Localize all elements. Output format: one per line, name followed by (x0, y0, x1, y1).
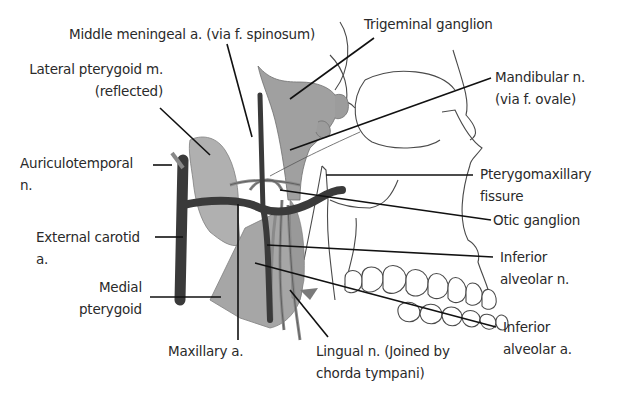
label-line-1: External carotid (36, 226, 140, 248)
label-line-2: pterygoid (40, 298, 142, 320)
label-lateral-pterygoid: Lateral pterygoid m. (reflected) (18, 58, 163, 102)
lateral-pterygoid-shape (189, 137, 240, 246)
label-inferior-alveolar-artery: Inferior alveolar a. (503, 316, 572, 360)
label-lingual-nerve: Lingual n. (Joined by chorda tympani) (316, 340, 450, 384)
label-line-1: Pterygomaxillary (480, 163, 591, 185)
label-line-1: Inferior (500, 246, 569, 268)
label-auriculotemporal-nerve: Auriculotemporal n. (20, 152, 133, 196)
anatomy-figure: Middle meningeal a. (via f. spinosum) Tr… (0, 0, 620, 396)
label-line-1: Mandibular n. (495, 66, 585, 88)
label-line-2: fissure (480, 185, 591, 207)
label-pterygomaxillary-fissure: Pterygomaxillary fissure (480, 163, 591, 207)
label-line-2: alveolar n. (500, 268, 569, 290)
label-line-1: Auriculotemporal (20, 152, 133, 174)
label-line-2: (via f. ovale) (495, 88, 585, 110)
label-line-2: n. (20, 174, 133, 196)
label-line-2: a. (36, 248, 140, 270)
label-line-2: chorda tympani) (316, 362, 450, 384)
label-line-2: alveolar a. (503, 338, 572, 360)
label-line-1: Medial (40, 276, 142, 298)
label-inferior-alveolar-nerve: Inferior alveolar n. (500, 246, 569, 290)
label-middle-meningeal-artery: Middle meningeal a. (via f. spinosum) (69, 23, 315, 45)
label-line-1: Lateral pterygoid m. (18, 58, 163, 80)
label-trigeminal-ganglion: Trigeminal ganglion (364, 13, 493, 35)
label-maxillary-artery: Maxillary a. (168, 340, 243, 362)
teeth (345, 266, 508, 331)
label-otic-ganglion: Otic ganglion (493, 209, 580, 231)
label-line-1: Lingual n. (Joined by (316, 340, 450, 362)
label-external-carotid-artery: External carotid a. (36, 226, 140, 270)
label-medial-pterygoid: Medial pterygoid (40, 276, 142, 320)
label-line-1: Inferior (503, 316, 572, 338)
skull-outline (300, 22, 492, 305)
label-line-2: (reflected) (18, 80, 163, 102)
label-mandibular-nerve: Mandibular n. (via f. ovale) (495, 66, 585, 110)
